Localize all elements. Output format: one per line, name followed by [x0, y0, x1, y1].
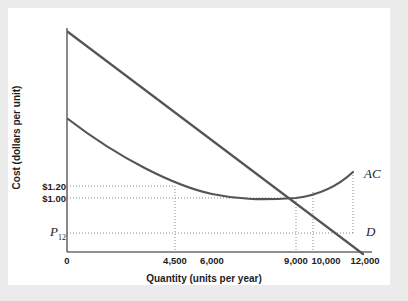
price-symbol: P [50, 224, 58, 239]
demand-curve [68, 32, 363, 254]
x-axis-title: Quantity (units per year) [0, 273, 408, 284]
figure-container: Quantity (units per year) Cost (dollars … [0, 0, 408, 301]
curve-label-d: D [366, 224, 375, 240]
average-cost-curve [68, 119, 353, 199]
price-axis-label: P12 [50, 224, 66, 242]
y-axis-title: Cost (dollars per unit) [11, 58, 22, 218]
y-tick-label-100: $1.00 [42, 193, 66, 204]
x-tick-label-9000: 9,000 [284, 255, 308, 266]
price-subscript: 12 [58, 233, 66, 242]
curve-label-ac: AC [364, 166, 381, 182]
x-tick-label-10000: 10,000 [311, 255, 340, 266]
x-tick-label-4500: 4,500 [163, 255, 187, 266]
x-tick-label-12000: 12,000 [350, 255, 379, 266]
x-tick-label-6000: 6,000 [200, 255, 224, 266]
x-tick-label-0: 0 [64, 255, 69, 266]
y-tick-label-120: $1.20 [42, 181, 66, 192]
